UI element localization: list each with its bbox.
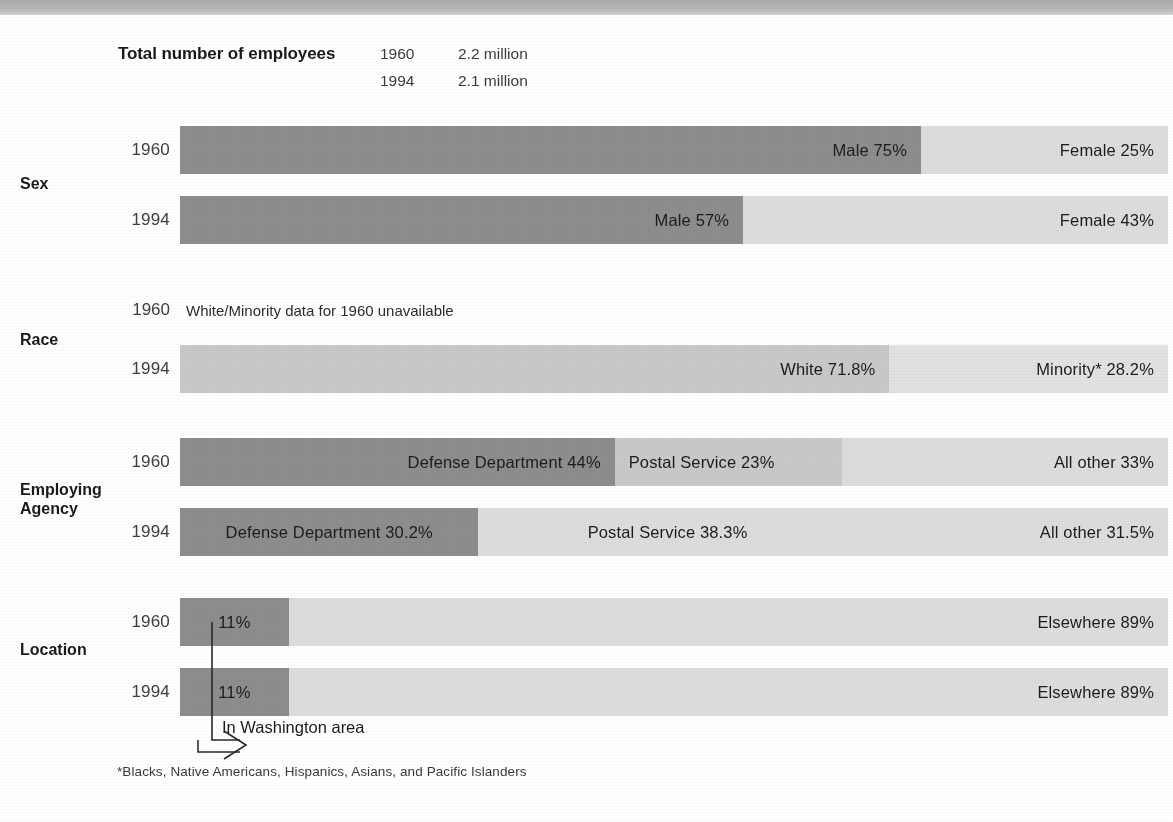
- bar-segment-male[interactable]: Male 57%: [180, 196, 743, 244]
- segment-label: Elsewhere 89%: [1037, 613, 1154, 632]
- group-label-location: Location: [20, 640, 87, 659]
- row-year-label: 1994: [98, 196, 170, 244]
- segment-label: All other 31.5%: [1040, 523, 1154, 542]
- bar-segment-elsewhere[interactable]: Elsewhere 89%: [289, 668, 1168, 716]
- segment-label: Male 57%: [655, 211, 730, 230]
- totals-value: 2.1 million: [458, 72, 528, 90]
- bar-segment-postal-service[interactable]: Postal Service 38.3%: [478, 508, 856, 556]
- group-label-sex: Sex: [20, 174, 48, 193]
- stacked-bar: Male 75% Female 25%: [180, 126, 1168, 174]
- segment-label: White 71.8%: [780, 360, 875, 379]
- row-year-label: 1960: [98, 438, 170, 486]
- page-header-band: [0, 0, 1173, 15]
- segment-label: Defense Department 30.2%: [226, 523, 433, 542]
- totals-value: 2.2 million: [458, 45, 528, 63]
- stacked-bar: 11% Elsewhere 89%: [180, 668, 1168, 716]
- row-note-text: White/Minority data for 1960 unavailable: [186, 286, 454, 334]
- segment-label: Female 25%: [1060, 141, 1154, 160]
- bar-segment-defense-department[interactable]: Defense Department 30.2%: [180, 508, 478, 556]
- stacked-bar: Male 57% Female 43%: [180, 196, 1168, 244]
- segment-label: Defense Department 44%: [408, 453, 601, 472]
- segment-label: Postal Service 23%: [629, 453, 775, 472]
- bar-segment-elsewhere[interactable]: Elsewhere 89%: [289, 598, 1168, 646]
- bar-segment-minority[interactable]: Minority* 28.2%: [889, 345, 1168, 393]
- stacked-bar: Defense Department 44% Postal Service 23…: [180, 438, 1168, 486]
- footnote: *Blacks, Native Americans, Hispanics, As…: [117, 764, 527, 779]
- stacked-bar: Defense Department 30.2% Postal Service …: [180, 508, 1168, 556]
- segment-label: Female 43%: [1060, 211, 1154, 230]
- totals-title: Total number of employees: [118, 44, 335, 64]
- totals-year: 1960: [380, 45, 424, 63]
- segment-label: Elsewhere 89%: [1037, 683, 1154, 702]
- bar-segment-male[interactable]: Male 75%: [180, 126, 921, 174]
- row-year-label: 1960: [98, 598, 170, 646]
- segment-label: All other 33%: [1054, 453, 1154, 472]
- stacked-bar: White 71.8% Minority* 28.2%: [180, 345, 1168, 393]
- row-year-label: 1960: [98, 286, 170, 334]
- bar-segment-in-washington-area[interactable]: 11%: [180, 668, 289, 716]
- group-label-employing-agency: Employing Agency: [20, 480, 102, 518]
- bar-segment-female[interactable]: Female 43%: [743, 196, 1168, 244]
- bar-segment-all-other[interactable]: All other 31.5%: [857, 508, 1168, 556]
- stacked-bar: 11% Elsewhere 89%: [180, 598, 1168, 646]
- segment-label: 11%: [218, 683, 250, 702]
- chart-canvas: Total number of employees 1960 2.2 milli…: [0, 0, 1173, 822]
- bar-segment-white[interactable]: White 71.8%: [180, 345, 889, 393]
- totals-year: 1994: [380, 72, 424, 90]
- callout-label-in-washington-area: In Washington area: [222, 718, 364, 737]
- row-year-label: 1994: [98, 508, 170, 556]
- segment-label: Postal Service 38.3%: [588, 523, 748, 542]
- group-label-race: Race: [20, 330, 58, 349]
- bar-segment-postal-service[interactable]: Postal Service 23%: [615, 438, 842, 486]
- row-year-label: 1960: [98, 126, 170, 174]
- bar-segment-all-other[interactable]: All other 33%: [842, 438, 1168, 486]
- bar-segment-in-washington-area[interactable]: 11%: [180, 598, 289, 646]
- segment-label: Minority* 28.2%: [1036, 360, 1154, 379]
- segment-label: 11%: [218, 613, 250, 632]
- row-year-label: 1994: [98, 345, 170, 393]
- bar-segment-female[interactable]: Female 25%: [921, 126, 1168, 174]
- bar-segment-defense-department[interactable]: Defense Department 44%: [180, 438, 615, 486]
- leader-line-1994: [198, 740, 240, 752]
- segment-label: Male 75%: [832, 141, 907, 160]
- row-year-label: 1994: [98, 668, 170, 716]
